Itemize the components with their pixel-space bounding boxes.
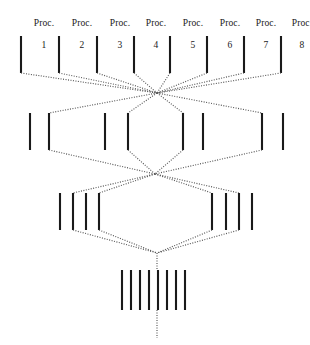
gather-line: [21, 73, 157, 93]
gather-line: [155, 150, 262, 174]
processor-label-index: 3: [103, 40, 137, 51]
scatter-line: [99, 174, 155, 193]
processor-label-index: 5: [176, 40, 210, 51]
processor-label-text: Proc.: [65, 18, 99, 29]
processor-label-index: 8: [285, 40, 310, 51]
processor-label-text: Proc.: [27, 18, 61, 29]
processor-label-text: Proc.: [213, 18, 247, 29]
scatter-line: [73, 174, 155, 193]
stage-2-gather-lines: [49, 150, 262, 174]
processor-label-index: 6: [213, 40, 247, 51]
level-4-bars: [122, 270, 185, 310]
processor-label-3: Proc. 3: [103, 7, 137, 62]
gather-line: [99, 230, 157, 253]
gather-line: [128, 150, 155, 174]
processor-label-index: 7: [249, 40, 283, 51]
gather-line: [49, 150, 155, 174]
processor-label-text: Proc.: [176, 18, 210, 29]
level-3-bars: [60, 193, 252, 230]
gather-line: [73, 230, 157, 253]
gather-line: [157, 230, 239, 253]
processor-label-text: Proc.: [249, 18, 283, 29]
gather-line: [157, 73, 244, 93]
processor-label-5: Proc. 5: [176, 7, 210, 62]
processor-label-index: 1: [27, 40, 61, 51]
stage-3-gather-lines: [73, 230, 239, 253]
processor-label-6: Proc. 6: [213, 7, 247, 62]
processor-label-index: 4: [139, 40, 173, 51]
gather-line: [157, 73, 281, 93]
processor-label-index: 2: [65, 40, 99, 51]
scatter-line: [128, 93, 157, 113]
stage-1-gather-lines: [21, 73, 281, 93]
stage-2-scatter-lines: [73, 174, 239, 193]
scatter-line: [49, 93, 157, 113]
processor-label-2: Proc. 2: [65, 7, 99, 62]
gather-line: [59, 73, 157, 93]
diagram-canvas: Proc. 1 Proc. 2 Proc. 3 Proc. 4 Proc. 5 …: [0, 0, 310, 345]
processor-label-1: Proc. 1: [27, 7, 61, 62]
processor-label-text: Proc.: [139, 18, 173, 29]
scatter-line: [157, 93, 262, 113]
stage-1-scatter-lines: [49, 93, 262, 113]
scatter-line: [155, 174, 212, 193]
processor-label-4: Proc. 4: [139, 7, 173, 62]
processor-label-8: Proc. 8: [285, 7, 310, 62]
processor-label-7: Proc. 7: [249, 7, 283, 62]
scatter-line: [155, 174, 239, 193]
gather-line: [157, 230, 212, 253]
processor-label-text: Proc.: [285, 18, 310, 29]
level-2-bars: [30, 113, 283, 150]
processor-label-text: Proc.: [103, 18, 137, 29]
